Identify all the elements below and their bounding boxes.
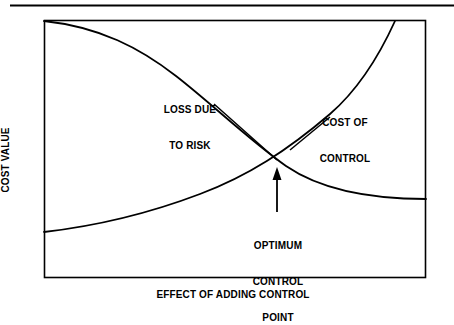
loss-due-to-risk-label-line1: LOSS DUE xyxy=(140,104,240,116)
optimum-control-point-label-line1: OPTIMUM xyxy=(228,240,328,252)
cost-of-control-label-line2: CONTROL xyxy=(297,153,393,165)
loss-due-to-risk-label-line2: TO RISK xyxy=(140,140,240,152)
optimum-control-point-label: OPTIMUM CONTROL POINT xyxy=(228,216,328,325)
loss-due-to-risk-label: LOSS DUE TO RISK xyxy=(140,80,240,176)
optimum-arrow-head xyxy=(273,167,282,180)
cost-of-control-label-line1: COST OF xyxy=(297,117,393,129)
y-axis-title: COST VALUE xyxy=(0,100,14,220)
cost-of-control-label: COST OF CONTROL xyxy=(297,93,393,189)
optimum-control-point-label-line2: CONTROL xyxy=(228,276,328,288)
optimum-control-point-label-line3: POINT xyxy=(228,312,328,324)
